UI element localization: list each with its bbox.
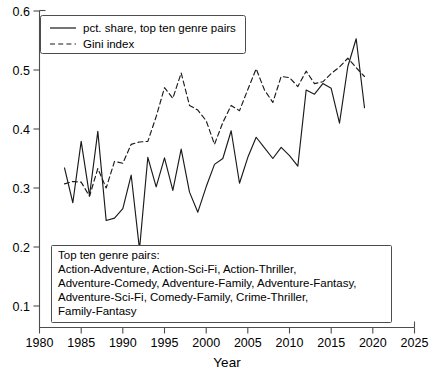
line-chart: 0.6 0.5 0.4 0.3 0.2 0.1 1980 1985 1990 1…	[0, 0, 435, 375]
x-tick-label-2005: 2005	[234, 336, 262, 350]
note-box: Top ten genre pairs: Action-Adventure, A…	[52, 246, 392, 323]
x-tick-label-2015: 2015	[317, 336, 345, 350]
x-tick-label-2010: 2010	[276, 336, 304, 350]
legend-label-pct-share: pct. share, top ten genre pairs	[83, 22, 236, 34]
x-tick-label-2000: 2000	[192, 336, 220, 350]
x-tick-label-1995: 1995	[151, 336, 179, 350]
note-line-2: Action-Adventure, Action-Sci-Fi, Action-…	[58, 263, 296, 275]
y-tick-label-0.5: 0.5	[13, 64, 30, 78]
x-tick-label-1985: 1985	[67, 336, 95, 350]
note-line-5: Family-Fantasy	[58, 305, 137, 317]
x-axis-title: Year	[213, 355, 241, 370]
y-tick-label-0.1: 0.1	[13, 300, 30, 314]
y-tick-label-0.6: 0.6	[13, 5, 30, 19]
legend-label-gini-index: Gini index	[83, 38, 134, 50]
y-tick-label-0.3: 0.3	[13, 182, 30, 196]
note-line-3: Adventure-Comedy, Adventure-Family, Adve…	[58, 277, 357, 289]
x-tick-label-2025: 2025	[401, 336, 429, 350]
x-tick-label-1980: 1980	[26, 336, 54, 350]
y-tick-label-0.2: 0.2	[13, 241, 30, 255]
note-line-4: Adventure-Sci-Fi, Comedy-Family, Crime-T…	[58, 291, 308, 303]
x-tick-label-2020: 2020	[359, 336, 387, 350]
x-tick-label-1990: 1990	[109, 336, 137, 350]
legend: pct. share, top ten genre pairs Gini ind…	[41, 16, 246, 54]
chart-figure: 0.6 0.5 0.4 0.3 0.2 0.1 1980 1985 1990 1…	[0, 0, 435, 375]
y-tick-label-0.4: 0.4	[13, 123, 30, 137]
note-line-1: Top ten genre pairs:	[58, 249, 160, 261]
